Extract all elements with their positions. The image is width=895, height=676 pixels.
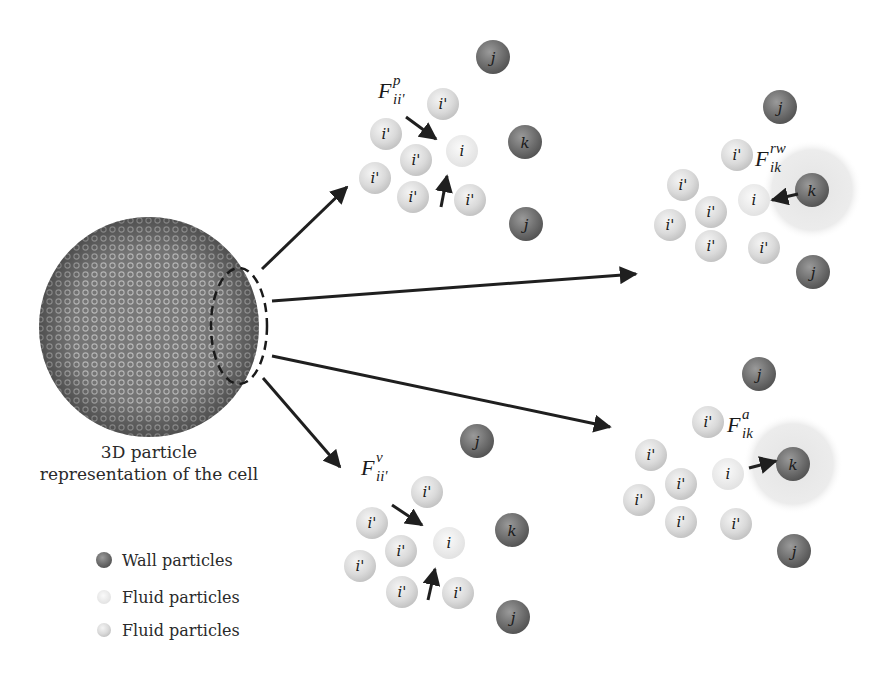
main-arrows [262,187,636,467]
center-fluid-particle: i [433,527,465,559]
fluid-particle-label: i' [666,216,675,234]
neighbor-fluid-particle: i' [385,535,417,567]
legend-label-wall: Wall particles [122,551,233,570]
neighbor-fluid-particle: i' [400,144,432,176]
neighbor-fluid-particle: i' [665,506,697,538]
neighbor-fluid-particle: i' [386,576,418,608]
cell-caption-line2: representation of the cell [40,464,258,484]
cell-sphere [39,217,267,437]
wall-particle-label: k [507,522,516,540]
neighbor-fluid-particle: i' [654,209,686,241]
wall-particle-j: j [460,424,494,458]
fluid-particle-label: i' [760,239,769,257]
fluid-particle-light-icon [97,590,111,604]
legend: Wall particles Fluid particles Fluid par… [96,551,240,640]
fluid-particle-label: i' [371,169,380,187]
neighbor-fluid-particle: i' [359,162,391,194]
force-symbol: F [360,455,375,480]
fluid-particle-label: i' [707,203,716,221]
diagram-canvas: 3D particle representation of the cell j… [0,0,895,676]
fluid-particle-label: i' [707,237,716,255]
force-superscript: v [376,449,383,465]
center-particle-label: i [447,534,452,552]
fluid-particle-label: i' [466,191,475,209]
force-subscript: ii' [376,468,388,484]
force-subscript: ik [770,159,781,175]
fluid-particle-label: i' [677,513,686,531]
fluid-particle-label: i' [398,583,407,601]
center-particle-label: i [460,142,465,160]
legend-item-fluid: Fluid particles [97,621,240,640]
neighbor-fluid-particle: i' [397,181,429,213]
legend-item-fluid-light: Fluid particles [97,588,240,607]
force-arrow [392,505,422,525]
wall-particle-j: j [496,600,530,634]
fluid-particle-label: i' [677,475,686,493]
cell-shading [39,217,259,437]
fluid-particle-icon [97,623,111,637]
neighbor-fluid-particle: i' [344,550,376,582]
fluid-particle-label: i' [732,515,741,533]
neighbor-fluid-particle: i' [411,476,443,508]
neighbor-fluid-particle: i' [427,88,459,120]
arrow-to-pressure-panel [262,187,347,269]
neighbor-fluid-particle: i' [665,468,697,500]
neighbor-fluid-particle: i' [442,577,474,609]
neighbor-fluid-particle: i' [454,184,486,216]
force-arrow [406,117,436,139]
fluid-particle-label: i' [368,514,377,532]
neighbor-fluid-particle: i' [695,230,727,262]
fluid-particle-label: i' [409,188,418,206]
neighbor-fluid-particle: i' [692,406,724,438]
fluid-particle-label: i' [439,95,448,113]
wall-particle-k: k [795,173,829,207]
arrow-to-repulsive-panel [272,274,636,301]
center-particle-label: i [726,465,731,483]
wall-particle-j: j [509,207,543,241]
panel-viscous: jkji'i'i'i'i'i'iFvii' [344,424,530,634]
fluid-particle-label: i' [733,146,742,164]
fluid-particle-label: i' [382,125,391,143]
wall-particle-j: j [763,90,797,124]
neighbor-fluid-particle: i' [356,507,388,539]
wall-particle-k: k [508,125,542,159]
legend-item-wall: Wall particles [96,551,233,570]
force-arrow [441,176,447,207]
force-label-pressure: Fpii' [377,72,405,107]
neighbor-fluid-particle: i' [721,139,753,171]
wall-particle-label: k [788,456,797,474]
force-superscript: a [742,406,750,422]
wall-particle-j: j [796,255,830,289]
force-symbol: F [754,146,769,171]
legend-label-fluid-light: Fluid particles [122,588,240,607]
wall-particle-j: j [742,357,776,391]
panel-pressure: jkji'i'i'i'i'i'iFpii' [359,40,543,241]
fluid-particle-label: i' [635,491,644,509]
neighbor-fluid-particle: i' [695,196,727,228]
force-symbol: F [726,412,741,437]
neighbor-fluid-particle: i' [748,232,780,264]
particle-force-diagram: 3D particle representation of the cell j… [0,0,895,676]
wall-particle-icon [96,552,112,568]
fluid-particle-label: i' [679,176,688,194]
force-arrow [428,569,435,600]
neighbor-fluid-particle: i' [370,118,402,150]
legend-label-fluid: Fluid particles [122,621,240,640]
force-subscript: ik [742,425,753,441]
arrow-to-viscous-panel [263,378,340,467]
panel-repulsive-wall: jkji'i'i'i'i'i'iFrwik [654,90,862,289]
neighbor-fluid-particle: i' [667,169,699,201]
force-label-attractive: Faik [726,406,753,441]
neighbor-fluid-particle: i' [623,484,655,516]
force-superscript: p [392,72,401,88]
wall-particle-j: j [777,534,811,568]
wall-particle-k: k [495,513,529,547]
fluid-particle-label: i' [397,542,406,560]
wall-particle-k: k [776,447,810,481]
force-superscript: rw [770,140,786,156]
force-subscript: ii' [393,91,405,107]
center-fluid-particle: i [738,184,770,216]
fluid-particle-label: i' [454,584,463,602]
fluid-particle-label: i' [423,483,432,501]
wall-particle-j: j [476,40,510,74]
